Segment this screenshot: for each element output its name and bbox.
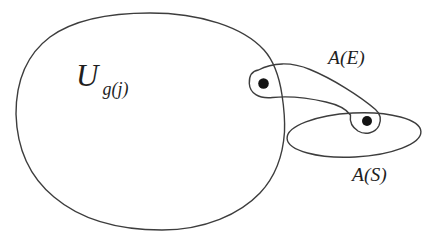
set-as-outline: [286, 110, 422, 161]
universe-label-subscript: g(j): [102, 79, 128, 100]
set-s-label: A(S): [350, 164, 387, 186]
script-u-glyph: U: [76, 58, 101, 93]
element-dot-as: [362, 116, 372, 126]
element-dot-ae: [258, 78, 269, 89]
set-ae-outline: [249, 64, 380, 133]
set-e-label: A(E): [326, 47, 365, 69]
universe-set-outline: [16, 13, 285, 230]
diagram-canvas: U g(j) A(E) A(S): [0, 0, 435, 238]
set-diagram: U g(j) A(E) A(S): [0, 0, 435, 238]
universe-label: U g(j): [76, 58, 128, 100]
